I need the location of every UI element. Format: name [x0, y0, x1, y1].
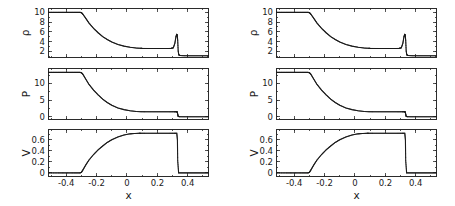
ytick-label: 0.4 [259, 147, 273, 156]
right-pressure-panel-curve [276, 72, 437, 116]
left-density-panel-plot-area [48, 8, 209, 58]
ytick-label: 5 [40, 96, 45, 105]
figure-root: 246810ρ0510P00.20.40.6V-0.4-0.200.20.4x … [0, 0, 455, 206]
right-velocity-panel-plot-area [276, 129, 437, 177]
ytick-label: 8 [40, 18, 45, 27]
right-velocity-panel-axis-label-x: x [353, 190, 359, 201]
xtick-label: -0.2 [88, 179, 105, 188]
ytick-label: 2 [268, 47, 273, 56]
right-velocity-panel-data-points [276, 133, 436, 174]
ytick-label: 4 [268, 37, 273, 46]
figure-panel-right: 246810ρ0510P00.20.40.6V-0.4-0.200.20.4x [228, 0, 455, 206]
left-pressure-panel-axis-label-y: P [21, 91, 32, 97]
right-density-panel-axis-label-y: ρ [249, 30, 260, 37]
ytick-label: 10 [34, 79, 45, 88]
right-velocity-panel-curve [276, 133, 437, 173]
figure-panel-left: 246810ρ0510P00.20.40.6V-0.4-0.200.20.4x [0, 0, 227, 206]
xtick-label: 0.2 [379, 179, 393, 188]
left-pressure-panel-plot-area [48, 68, 209, 120]
xtick-label: 0 [352, 179, 357, 188]
left-density-panel: 246810ρ [48, 8, 209, 58]
right-pressure-panel: 0510P [276, 68, 437, 120]
ytick-label: 0 [40, 169, 45, 178]
ytick-label: 10 [262, 8, 273, 17]
ytick-label: 0.2 [31, 158, 45, 167]
ytick-label: 0.2 [259, 158, 273, 167]
right-velocity-panel: 00.20.40.6V-0.4-0.200.20.4x [276, 129, 437, 177]
left-pressure-panel-curve [48, 72, 209, 116]
left-velocity-panel-plot-area [48, 129, 209, 177]
ytick-label: 0.6 [259, 136, 273, 145]
right-pressure-panel-axis-label-y: P [249, 91, 260, 97]
left-velocity-panel-axis-label-x: x [125, 190, 131, 201]
left-velocity-panel-axis-label-y: V [21, 149, 32, 156]
left-velocity-panel-curve [48, 133, 209, 173]
right-density-panel-plot-area [276, 8, 437, 58]
xtick-label: 0.4 [181, 179, 195, 188]
right-pressure-panel-plot-area [276, 68, 437, 120]
left-pressure-panel-data-points [48, 72, 208, 117]
left-density-panel-axis-label-y: ρ [21, 30, 32, 37]
ytick-label: 5 [268, 96, 273, 105]
ytick-label: 0.4 [31, 147, 45, 156]
left-density-panel-curve [48, 12, 209, 55]
ytick-label: 6 [40, 28, 45, 37]
right-pressure-panel-data-points [276, 72, 436, 117]
right-density-panel-data-points [276, 12, 436, 56]
ytick-label: 0.6 [31, 136, 45, 145]
ytick-label: 10 [262, 79, 273, 88]
ytick-label: 0 [40, 113, 45, 122]
ytick-label: 6 [268, 28, 273, 37]
ytick-label: 8 [268, 18, 273, 27]
ytick-label: 0 [268, 113, 273, 122]
right-density-panel: 246810ρ [276, 8, 437, 58]
ytick-label: 4 [40, 37, 45, 46]
ytick-label: 10 [34, 8, 45, 17]
left-velocity-panel-data-points [48, 133, 208, 174]
xtick-label: -0.4 [58, 179, 75, 188]
xtick-label: 0.2 [151, 179, 165, 188]
left-velocity-panel: 00.20.40.6V-0.4-0.200.20.4x [48, 129, 209, 177]
xtick-label: -0.2 [316, 179, 333, 188]
xtick-label: 0 [124, 179, 129, 188]
left-pressure-panel: 0510P [48, 68, 209, 120]
ytick-label: 2 [40, 47, 45, 56]
xtick-label: -0.4 [286, 179, 303, 188]
right-density-panel-curve [276, 12, 437, 55]
left-density-panel-data-points [48, 12, 208, 56]
xtick-label: 0.4 [409, 179, 423, 188]
ytick-label: 0 [268, 169, 273, 178]
right-velocity-panel-axis-label-y: V [249, 149, 260, 156]
